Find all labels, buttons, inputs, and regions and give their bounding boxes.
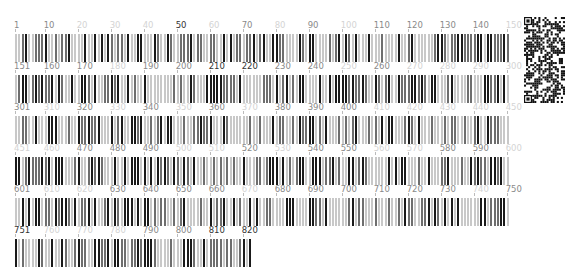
position-bar <box>114 116 116 144</box>
position-bar <box>484 157 486 185</box>
position-bar <box>503 116 505 144</box>
position-label: 370 <box>242 102 258 112</box>
position-bar <box>414 34 416 62</box>
position-bar <box>140 75 142 103</box>
position-bar <box>164 239 166 267</box>
tick-mark <box>45 234 46 237</box>
position-bar <box>428 34 430 62</box>
position-bar <box>51 34 53 62</box>
position-bar <box>461 157 463 185</box>
position-bar <box>464 157 466 185</box>
position-bar <box>216 198 218 226</box>
position-bar <box>259 198 261 226</box>
position-bar <box>15 116 17 144</box>
position-bar <box>71 116 73 144</box>
position-bar <box>206 198 208 226</box>
position-bar <box>78 198 80 226</box>
position-bar <box>365 75 367 103</box>
position-bar <box>378 157 380 185</box>
tick-mark <box>210 234 211 237</box>
position-label: 500 <box>176 143 192 153</box>
position-bar <box>467 198 469 226</box>
position-bar <box>124 239 126 267</box>
position-bar <box>164 198 166 226</box>
position-bar <box>65 75 67 103</box>
position-label: 380 <box>275 102 291 112</box>
tick-mark <box>144 193 145 196</box>
position-bar <box>500 34 502 62</box>
position-bar <box>371 116 373 144</box>
position-bar <box>121 198 123 226</box>
position-bar <box>35 198 37 226</box>
position-label: 300 <box>506 61 522 71</box>
position-bar <box>190 75 192 103</box>
position-bar <box>127 116 129 144</box>
position-bar <box>51 239 53 267</box>
position-bar <box>358 75 360 103</box>
position-bar <box>470 116 472 144</box>
position-bar <box>335 116 337 144</box>
position-bar <box>309 198 311 226</box>
position-bar <box>48 198 50 226</box>
position-bar <box>78 239 80 267</box>
position-bar <box>28 198 30 226</box>
position-bar <box>480 198 482 226</box>
position-bar <box>335 34 337 62</box>
position-bar <box>71 75 73 103</box>
position-label: 620 <box>77 184 93 194</box>
tick-mark <box>144 234 145 237</box>
position-bar <box>332 75 334 103</box>
position-bar <box>117 116 119 144</box>
position-bar <box>418 75 420 103</box>
position-bar <box>71 157 73 185</box>
position-bar <box>348 116 350 144</box>
position-bar <box>315 75 317 103</box>
position-bar <box>401 116 403 144</box>
position-bar <box>335 198 337 226</box>
position-bar <box>503 198 505 226</box>
position-label: 390 <box>308 102 324 112</box>
position-bar <box>319 116 321 144</box>
position-bar <box>256 198 258 226</box>
position-bar <box>65 34 67 62</box>
position-bar <box>249 239 251 267</box>
position-bar <box>296 75 298 103</box>
position-bar <box>497 34 499 62</box>
position-bar <box>220 75 222 103</box>
position-bar <box>233 239 235 267</box>
position-bar <box>305 157 307 185</box>
tick-mark <box>342 111 343 114</box>
position-bar <box>61 116 63 144</box>
position-bar <box>127 239 129 267</box>
position-bar <box>38 75 40 103</box>
tick-mark <box>408 193 409 196</box>
position-bar <box>286 34 288 62</box>
position-bar <box>28 157 30 185</box>
position-bar <box>124 157 126 185</box>
position-bar <box>428 116 430 144</box>
position-bar <box>239 157 241 185</box>
position-bar <box>88 198 90 226</box>
position-bar <box>170 198 172 226</box>
position-bar <box>74 157 76 185</box>
position-bar <box>170 116 172 144</box>
position-bar <box>494 75 496 103</box>
position-bar <box>203 198 205 226</box>
position-bar <box>101 157 103 185</box>
position-bar <box>329 198 331 226</box>
position-bar <box>305 75 307 103</box>
position-bar <box>404 34 406 62</box>
position-bar <box>302 116 304 144</box>
position-bar <box>65 116 67 144</box>
position-bar <box>114 34 116 62</box>
position-bar <box>197 75 199 103</box>
position-bar <box>243 239 245 267</box>
position-label: 600 <box>506 143 522 153</box>
position-bar <box>131 34 133 62</box>
position-bar <box>490 75 492 103</box>
position-bar <box>58 157 60 185</box>
position-label: 680 <box>275 184 291 194</box>
tick-mark <box>507 70 508 73</box>
position-bar <box>88 239 90 267</box>
tick-mark <box>309 193 310 196</box>
